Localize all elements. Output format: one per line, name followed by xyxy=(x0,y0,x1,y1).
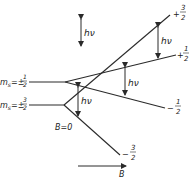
svg-text:ms=±: ms=± xyxy=(0,101,24,111)
level-label-half: ms=± 1 2 xyxy=(0,73,27,88)
transition-hv-label-mid: hν xyxy=(128,78,139,88)
transition-hv-label-high: hν xyxy=(161,36,172,46)
branch-plus-half xyxy=(65,55,176,82)
branch-label-plus-three-half: + 3 2 xyxy=(173,4,186,22)
zeeman-diagram: hν hν hν hν ms=± 1 2 ms=± 3 2 + 3 2 + 1 … xyxy=(0,0,190,180)
svg-text:3: 3 xyxy=(181,4,185,12)
svg-text:2: 2 xyxy=(131,154,136,162)
field-axis-label: B xyxy=(119,170,125,179)
svg-text:2: 2 xyxy=(181,14,186,22)
transition-hv-label-low: hν xyxy=(81,96,92,106)
branch-label-minus-three-half: − 3 2 xyxy=(122,144,136,162)
svg-text:2: 2 xyxy=(23,81,27,88)
svg-text:+: + xyxy=(177,51,184,60)
svg-text:1: 1 xyxy=(176,98,180,106)
branch-label-minus-half: − 1 2 xyxy=(167,98,181,116)
svg-text:2: 2 xyxy=(23,104,27,111)
branch-minus-three-half xyxy=(64,105,120,155)
svg-text:+: + xyxy=(173,10,180,19)
svg-text:−: − xyxy=(122,150,129,159)
svg-text:2: 2 xyxy=(176,108,181,116)
svg-text:1: 1 xyxy=(184,45,188,53)
svg-text:−: − xyxy=(167,104,174,113)
zero-field-label: B=0 xyxy=(55,123,72,132)
svg-text:1: 1 xyxy=(23,73,27,80)
legend-hv-label: hν xyxy=(84,28,95,38)
svg-text:3: 3 xyxy=(131,144,135,152)
branch-minus-half xyxy=(65,82,165,108)
level-label-three-half: ms=± 3 2 xyxy=(0,96,27,111)
branch-label-plus-half: + 1 2 xyxy=(177,45,189,63)
svg-text:3: 3 xyxy=(23,96,27,103)
svg-text:2: 2 xyxy=(184,55,189,63)
svg-text:ms=±: ms=± xyxy=(0,78,24,88)
